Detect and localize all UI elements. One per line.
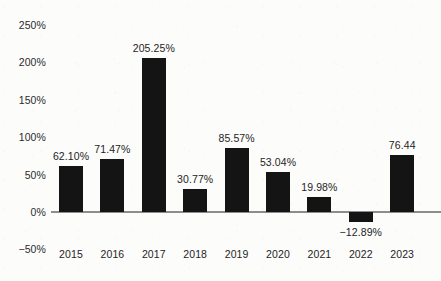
y-axis-tick-label: 150%	[0, 94, 46, 106]
bar-value-label: 19.98%	[284, 181, 354, 193]
bar-value-label: 76.44	[367, 139, 437, 151]
y-axis-tick-label: −50%	[0, 243, 46, 255]
y-axis-tick-label: 200%	[0, 56, 46, 68]
bar[interactable]	[142, 58, 166, 212]
bar-value-label: 205.25%	[119, 42, 189, 54]
bar-value-label: −12.89%	[326, 226, 396, 238]
bar-value-label: 30.77%	[160, 173, 230, 185]
bar[interactable]	[59, 166, 83, 212]
bar-value-label: 53.04%	[243, 156, 313, 168]
y-axis-tick-label: 50%	[0, 169, 46, 181]
y-axis-tick-label: 0%	[0, 206, 46, 218]
bar[interactable]	[349, 212, 373, 222]
bar[interactable]	[390, 155, 414, 212]
bar[interactable]	[183, 189, 207, 212]
y-axis-tick-label: 250%	[0, 19, 46, 31]
bar-value-label: 85.57%	[202, 132, 272, 144]
plot-area: 250%200%150%100%50%0%−50% 62.10%71.47%20…	[0, 0, 441, 281]
x-axis-tick-label: 2023	[372, 248, 432, 260]
y-axis-tick-label: 100%	[0, 131, 46, 143]
bar[interactable]	[100, 159, 124, 212]
bar[interactable]	[307, 197, 331, 212]
bar-value-label: 71.47%	[77, 143, 147, 155]
bar-chart: 250%200%150%100%50%0%−50% 62.10%71.47%20…	[0, 0, 441, 281]
